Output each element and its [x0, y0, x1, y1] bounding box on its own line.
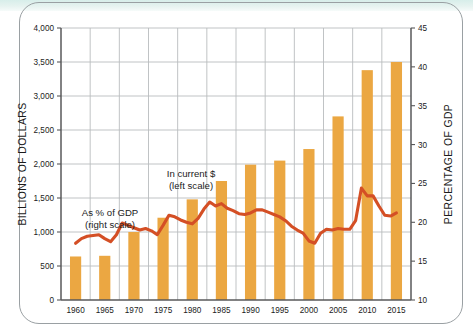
y-tick-label: 4,000 [34, 24, 55, 33]
bar-2015 [391, 62, 402, 300]
x-tick-label-1960: 1960 [66, 306, 85, 315]
left-axis-ticks: 05001,0001,5002,0002,5003,0003,5004,000 [34, 24, 62, 305]
y-tick-label: 2,000 [34, 160, 55, 169]
x-tick-label-1990: 1990 [241, 306, 260, 315]
bars-annotation-line2: (left scale) [169, 180, 213, 191]
bar-1960 [70, 256, 81, 300]
x-tick-label-1975: 1975 [154, 306, 173, 315]
line-annotation: As % of GDP (right scale) [82, 207, 139, 230]
x-tick-label-1985: 1985 [212, 306, 231, 315]
bar-2010 [362, 70, 373, 300]
dual-axis-chart: 05001,0001,5002,0002,5003,0003,5004,000 … [0, 0, 473, 335]
y2-tick-label: 40 [418, 63, 428, 72]
bar-1965 [99, 256, 110, 300]
y-tick-label: 2,500 [34, 126, 55, 135]
y2-tick-label: 20 [418, 218, 428, 227]
bars-annotation: In current $ (left scale) [167, 168, 216, 191]
y-tick-label: 0 [49, 296, 54, 305]
y-axis-title: BILLIONS OF DOLLARS [17, 102, 28, 225]
y2-tick-label: 35 [418, 102, 428, 111]
bar-2005 [332, 116, 343, 300]
y2-tick-label: 45 [418, 24, 428, 33]
bar-1985 [216, 181, 227, 300]
y2-tick-label: 15 [418, 257, 428, 266]
chart-figure: 05001,0001,5002,0002,5003,0003,5004,000 … [0, 0, 473, 335]
x-tick-label-1995: 1995 [271, 306, 290, 315]
y2-tick-label: 10 [418, 296, 428, 305]
x-tick-label-1980: 1980 [183, 306, 202, 315]
bar-1990 [245, 165, 256, 300]
y-tick-label: 1,500 [34, 194, 55, 203]
y-tick-label: 3,000 [34, 92, 55, 101]
right-axis-ticks: 1015202530354045 [411, 24, 428, 305]
y-tick-label: 3,500 [34, 58, 55, 67]
y2-axis-title: PERCENTAGE OF GDP [443, 104, 454, 224]
bar-1970 [128, 232, 139, 300]
y2-tick-label: 30 [418, 141, 428, 150]
y-tick-label: 500 [40, 262, 54, 271]
x-tick-label-1970: 1970 [125, 306, 144, 315]
x-tick-label-2010: 2010 [358, 306, 377, 315]
x-tick-label-2000: 2000 [300, 306, 319, 315]
x-axis-ticks: 1960196519701975198019851990199520002005… [66, 306, 406, 315]
y-tick-label: 1,000 [34, 228, 55, 237]
x-tick-label-2005: 2005 [329, 306, 348, 315]
bars-annotation-line1: In current $ [167, 168, 216, 179]
y2-tick-label: 25 [418, 179, 428, 188]
line-annotation-line2: (right scale) [85, 219, 135, 230]
x-tick-label-1965: 1965 [96, 306, 115, 315]
bar-1995 [274, 161, 285, 300]
bar-1980 [187, 199, 198, 300]
line-annotation-line1: As % of GDP [82, 207, 139, 218]
x-tick-label-2015: 2015 [387, 306, 406, 315]
bar-2000 [303, 149, 314, 300]
